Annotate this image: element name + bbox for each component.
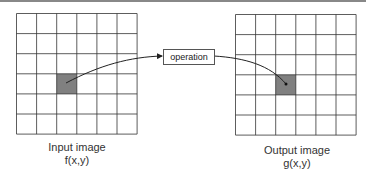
input-title: Input image [17,141,137,154]
output-func: g(x,y) [237,157,357,170]
operation-box: operation [163,49,215,65]
arrow-input-to-operation [66,56,162,83]
input-func: f(x,y) [17,154,137,167]
output-point-dot [285,83,288,86]
output-title: Output image [237,144,357,157]
input-caption: Input image f(x,y) [17,141,137,167]
output-caption: Output image g(x,y) [237,144,357,170]
arrow-operation-to-output [214,56,286,84]
input-image-grid [17,14,138,135]
highlighted-pixel [57,74,77,94]
output-image-grid [236,15,357,136]
